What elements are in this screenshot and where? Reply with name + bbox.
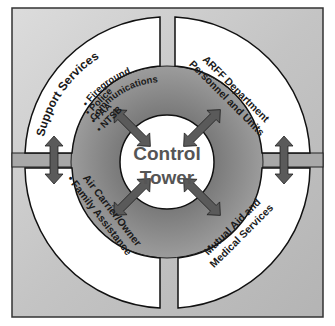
- diagram-canvas: Control Tower Support Services • Police …: [0, 0, 335, 326]
- center-title-line1: Control: [133, 143, 201, 164]
- center-title-line2: Tower: [140, 167, 195, 188]
